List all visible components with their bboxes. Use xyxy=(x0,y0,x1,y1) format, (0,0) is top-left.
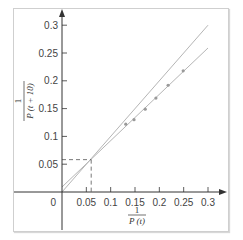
x-tick-label: 0.3 xyxy=(201,197,215,208)
plot-line xyxy=(62,48,208,187)
x-tick-label: 0.1 xyxy=(104,197,118,208)
ticks: 0.050.10.150.20.250.30.050.10.150.20.250… xyxy=(39,20,216,208)
x-axis-label: 1P (t) xyxy=(128,205,146,226)
data-point xyxy=(182,69,185,72)
x-axis-arrow-icon xyxy=(219,189,227,195)
data-point xyxy=(154,96,157,99)
x-tick-label: 0.05 xyxy=(77,197,97,208)
y-axis-arrow-icon xyxy=(59,9,65,17)
y-tick-label: 0.15 xyxy=(39,103,59,114)
x-tick-label: 0.2 xyxy=(152,197,166,208)
plot-lines xyxy=(62,25,208,192)
origin-label: 0 xyxy=(50,197,56,208)
plot-line xyxy=(62,25,208,192)
y-label-denominator: P (t + 10) xyxy=(25,83,35,120)
data-point xyxy=(144,108,147,111)
chart: 1P (t + 10) 0.050.10.150.20.250.30.050.1… xyxy=(0,0,243,240)
x-label-denominator: P (t) xyxy=(128,216,145,226)
data-point xyxy=(167,84,170,87)
y-tick-label: 0.1 xyxy=(44,131,58,142)
x-tick-label: 0.25 xyxy=(174,197,194,208)
y-tick-label: 0.05 xyxy=(39,159,59,170)
y-tick-label: 0.2 xyxy=(44,75,58,86)
y-label-numerator: 1 xyxy=(13,99,23,104)
data-point xyxy=(132,118,135,121)
data-point xyxy=(124,123,127,126)
data-points xyxy=(124,69,185,126)
y-tick-label: 0.3 xyxy=(44,20,58,31)
axes xyxy=(14,9,227,230)
x-label-numerator: 1 xyxy=(135,205,140,215)
y-axis-label: 1P (t + 10) xyxy=(13,81,35,121)
y-tick-label: 0.25 xyxy=(39,48,59,59)
